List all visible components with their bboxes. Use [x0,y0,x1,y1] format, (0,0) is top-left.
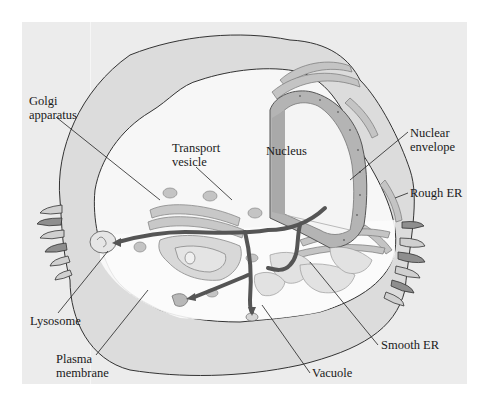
label-vacuole: Vacuole [312,366,352,380]
label-smooth-er: Smooth ER [381,338,439,352]
lysosome-shape [90,231,116,253]
label-line: Nucleus [266,144,307,158]
label-lysosome: Lysosome [30,314,81,328]
label-line: Golgi [29,94,77,108]
label-rough-er: Rough ER [410,186,462,200]
label-line: membrane [56,366,109,380]
label-line: Smooth ER [381,338,439,352]
label-nucleus: Nucleus [266,144,307,158]
label-transport-vesicle: Transport vesicle [172,141,220,169]
label-line: Rough ER [410,186,462,200]
label-plasma-membrane: Plasma membrane [56,352,109,380]
label-line: vesicle [172,155,220,169]
label-line: envelope [410,140,455,154]
label-line: Vacuole [312,366,352,380]
label-line: Lysosome [30,314,81,328]
label-line: apparatus [29,108,77,122]
label-line: Transport [172,141,220,155]
label-line: Plasma [56,352,109,366]
label-line: Nuclear [410,126,455,140]
label-nuclear-envelope: Nuclear envelope [410,126,455,154]
label-golgi-apparatus: Golgi apparatus [29,94,77,122]
